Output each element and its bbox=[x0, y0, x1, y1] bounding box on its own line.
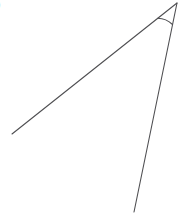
angle-diagram bbox=[0, 0, 191, 216]
angle-arc-mark bbox=[158, 18, 173, 24]
ray-upper-left-line bbox=[12, 3, 177, 134]
ray-lower-left-line bbox=[134, 3, 177, 212]
figure-canvas: ) bbox=[0, 0, 191, 216]
